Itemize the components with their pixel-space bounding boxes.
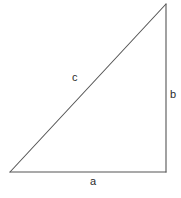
triangle-shape: [0, 0, 181, 198]
triangle-figure: c b a: [0, 0, 181, 198]
side-label-c: c: [72, 72, 78, 83]
side-label-b: b: [170, 89, 176, 100]
side-label-a: a: [90, 176, 96, 187]
hypotenuse-line-c: [10, 4, 166, 172]
